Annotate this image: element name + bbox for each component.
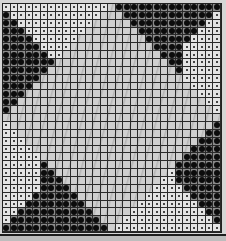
light-dot-cell xyxy=(176,216,184,224)
dark-circle-cell xyxy=(213,208,221,216)
plain-cell xyxy=(108,43,116,51)
dark-circle-cell xyxy=(63,201,71,209)
plain-cell xyxy=(116,28,124,36)
plain-cell xyxy=(41,153,49,161)
plain-cell xyxy=(138,35,146,43)
plain-cell xyxy=(108,193,116,201)
light-dot-cell xyxy=(56,12,64,20)
dark-circle-cell xyxy=(168,59,176,67)
dark-circle-cell xyxy=(206,169,214,177)
light-dot-cell xyxy=(71,28,79,36)
plain-cell xyxy=(108,51,116,59)
plain-cell xyxy=(108,12,116,20)
light-dot-cell xyxy=(213,98,221,106)
plain-cell xyxy=(93,169,101,177)
dark-circle-cell xyxy=(11,216,19,224)
light-dot-cell xyxy=(33,161,41,169)
light-dot-cell xyxy=(183,208,191,216)
plain-cell xyxy=(206,114,214,122)
plain-cell xyxy=(191,130,199,138)
plain-cell xyxy=(33,122,41,130)
plain-cell xyxy=(138,67,146,75)
light-dot-cell xyxy=(198,43,206,51)
light-dot-cell xyxy=(56,35,64,43)
dark-circle-cell xyxy=(183,161,191,169)
dark-circle-cell xyxy=(26,201,34,209)
dark-circle-cell xyxy=(3,51,11,59)
plain-cell xyxy=(146,185,154,193)
dark-circle-cell xyxy=(18,35,26,43)
plain-cell xyxy=(198,98,206,106)
dark-circle-cell xyxy=(138,4,146,12)
plain-cell xyxy=(78,146,86,154)
light-dot-cell xyxy=(18,185,26,193)
light-dot-cell xyxy=(206,98,214,106)
plain-cell xyxy=(101,20,109,28)
dark-circle-cell xyxy=(48,216,56,224)
plain-cell xyxy=(3,114,11,122)
plain-cell xyxy=(116,161,124,169)
plain-cell xyxy=(18,98,26,106)
light-dot-cell xyxy=(11,138,19,146)
dark-circle-cell xyxy=(18,75,26,83)
light-dot-cell xyxy=(18,138,26,146)
light-dot-cell xyxy=(161,224,169,232)
plain-cell xyxy=(101,177,109,185)
light-dot-cell xyxy=(3,216,11,224)
plain-cell xyxy=(86,75,94,83)
plain-cell xyxy=(116,43,124,51)
dark-circle-cell xyxy=(86,216,94,224)
dark-circle-cell xyxy=(41,169,49,177)
plain-cell xyxy=(63,130,71,138)
dark-circle-cell xyxy=(78,216,86,224)
plain-cell xyxy=(18,106,26,114)
plain-cell xyxy=(138,75,146,83)
dark-circle-cell xyxy=(11,35,19,43)
dark-circle-cell xyxy=(198,12,206,20)
plain-cell xyxy=(131,177,139,185)
dark-circle-cell xyxy=(213,216,221,224)
light-dot-cell xyxy=(48,20,56,28)
plain-cell xyxy=(63,153,71,161)
dark-circle-cell xyxy=(63,216,71,224)
plain-cell xyxy=(138,130,146,138)
plain-cell xyxy=(48,114,56,122)
light-dot-cell xyxy=(33,153,41,161)
dark-circle-cell xyxy=(153,43,161,51)
dark-circle-cell xyxy=(33,59,41,67)
plain-cell xyxy=(183,83,191,91)
light-dot-cell xyxy=(183,193,191,201)
plain-cell xyxy=(153,138,161,146)
plain-cell xyxy=(161,59,169,67)
plain-cell xyxy=(56,138,64,146)
plain-cell xyxy=(123,59,131,67)
dark-circle-cell xyxy=(206,177,214,185)
light-dot-cell xyxy=(206,75,214,83)
light-dot-cell xyxy=(18,12,26,20)
plain-cell xyxy=(146,59,154,67)
plain-cell xyxy=(78,185,86,193)
plain-cell xyxy=(63,67,71,75)
light-dot-cell xyxy=(18,146,26,154)
plain-cell xyxy=(191,90,199,98)
plain-cell xyxy=(183,138,191,146)
plain-cell xyxy=(78,106,86,114)
dark-circle-cell xyxy=(11,75,19,83)
dark-circle-cell xyxy=(213,177,221,185)
dark-circle-cell xyxy=(41,59,49,67)
pattern-board xyxy=(2,3,222,233)
plain-cell xyxy=(131,28,139,36)
plain-cell xyxy=(108,67,116,75)
plain-cell xyxy=(123,146,131,154)
light-dot-cell xyxy=(26,20,34,28)
light-dot-cell xyxy=(48,51,56,59)
plain-cell xyxy=(56,59,64,67)
dark-circle-cell xyxy=(26,208,34,216)
dark-circle-cell xyxy=(168,35,176,43)
plain-cell xyxy=(161,130,169,138)
plain-cell xyxy=(161,98,169,106)
plain-cell xyxy=(131,98,139,106)
dark-circle-cell xyxy=(71,208,79,216)
dark-circle-cell xyxy=(18,59,26,67)
plain-cell xyxy=(123,177,131,185)
